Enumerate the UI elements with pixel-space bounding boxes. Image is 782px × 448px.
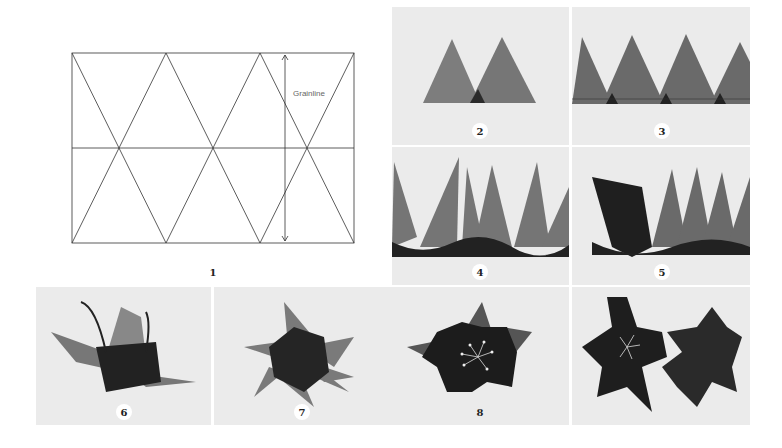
step-label-5: 5 — [654, 264, 670, 280]
step-photo-5: 5 — [572, 147, 750, 285]
step-label-2: 2 — [472, 123, 488, 139]
step-photo-8: 8 — [392, 287, 569, 425]
step-photo-2: 2 — [392, 7, 569, 145]
step-label-1: 1 — [210, 267, 217, 278]
step-photo-7: 7 — [214, 287, 392, 425]
step-photo-3: 3 — [572, 7, 750, 145]
step-photo-4: 4 — [392, 147, 569, 285]
step-label-3: 3 — [654, 123, 670, 139]
step-label-6: 6 — [116, 404, 132, 420]
step-label-7: 7 — [294, 404, 310, 420]
step-label-4: 4 — [472, 264, 488, 280]
step-label-8: 8 — [477, 407, 484, 418]
pattern-lines — [0, 0, 390, 285]
triangle-pattern-diagram: Grainline 1 — [0, 0, 390, 285]
final-flowers-photo — [572, 287, 750, 425]
grainline-label: Grainline — [293, 89, 325, 98]
step-photo-6: 6 — [36, 287, 211, 425]
